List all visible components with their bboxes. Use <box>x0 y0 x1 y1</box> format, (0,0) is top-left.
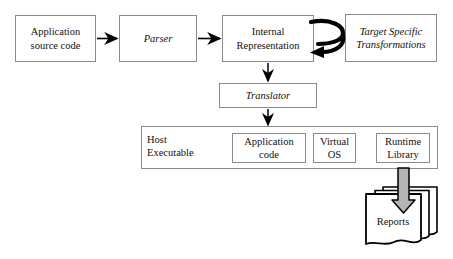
label-line-1: Application <box>31 26 81 37</box>
label-line-2: Representation <box>237 40 300 51</box>
node-application-source-code-label: Application source code <box>31 25 81 51</box>
label-line-2: OS <box>328 149 341 160</box>
label-line-1: Virtual <box>320 136 349 147</box>
node-parser: Parser <box>119 15 197 62</box>
node-internal-representation: Internal Representation <box>222 15 314 62</box>
label-line-1: Target Specific <box>360 26 423 37</box>
label-line-2: Transformations <box>356 39 425 50</box>
node-application-source-code: Application source code <box>15 15 96 62</box>
node-runtime-library-label: Runtime Library <box>385 135 421 161</box>
node-reports-label: Reports <box>362 216 424 227</box>
node-virtual-os: Virtual OS <box>313 133 356 163</box>
edge-runtime-library-to-reports-block-arrow <box>392 168 415 213</box>
node-host-executable-label: Host Executable <box>147 133 194 159</box>
node-parser-label: Parser <box>144 32 173 45</box>
label-line-2: Library <box>387 149 419 160</box>
node-application-code-label: Application code <box>244 135 294 161</box>
node-translator-label: Translator <box>246 89 290 102</box>
node-target-specific-transformations: Target Specific Transformations <box>345 14 437 62</box>
reports-sheet-back <box>383 187 437 236</box>
diagram-canvas: Application source code Parser Internal … <box>0 0 453 259</box>
label-line-2: code <box>259 149 279 160</box>
node-translator: Translator <box>219 83 317 108</box>
node-internal-representation-label: Internal Representation <box>237 25 300 51</box>
node-runtime-library: Runtime Library <box>376 133 430 163</box>
label-line-1: Internal <box>252 26 285 37</box>
label-line-1: Host <box>147 134 167 145</box>
node-target-specific-transformations-label: Target Specific Transformations <box>356 25 425 51</box>
label-line-1: Runtime <box>385 136 421 147</box>
label-line-1: Application <box>244 136 294 147</box>
node-virtual-os-label: Virtual OS <box>320 135 349 161</box>
node-application-code: Application code <box>232 133 306 163</box>
edge-ir-to-transformations-loop <box>310 21 343 58</box>
label-line-2: Executable <box>147 147 194 158</box>
label-line-2: source code <box>31 40 81 51</box>
